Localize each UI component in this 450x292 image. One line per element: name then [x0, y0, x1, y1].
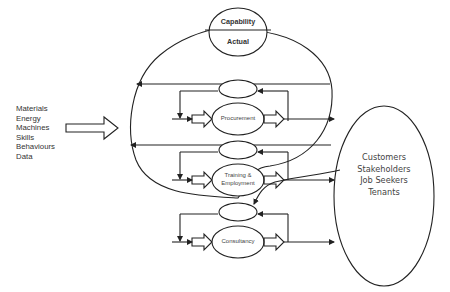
- input-item: Behaviours: [16, 142, 55, 152]
- training-label-line2: Employment: [221, 180, 254, 187]
- inputs-list: Materials Energy Machines Skills Behavio…: [16, 104, 55, 161]
- procurement-label: Procurement: [221, 115, 255, 122]
- input-item: Skills: [16, 133, 55, 143]
- process-blocks: [0, 0, 450, 292]
- capability-label: Capability: [221, 18, 255, 25]
- input-item: Machines: [16, 123, 55, 133]
- input-item: Materials: [16, 104, 55, 114]
- input-item: Data: [16, 152, 55, 162]
- training-label-line1: Training &: [224, 172, 251, 179]
- output-item: Job Seekers: [357, 175, 410, 187]
- actual-label: Actual: [227, 38, 249, 45]
- input-item: Energy: [16, 114, 55, 124]
- output-item: Customers: [357, 152, 410, 164]
- output-item: Stakeholders: [357, 164, 410, 176]
- output-item: Tenants: [357, 187, 410, 199]
- consultancy-label: Consultancy: [221, 238, 254, 245]
- outputs-list: Customers Stakeholders Job Seekers Tenan…: [357, 152, 410, 198]
